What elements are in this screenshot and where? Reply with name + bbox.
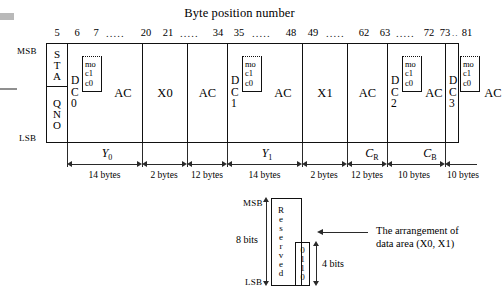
dc1-letter-n: 1: [231, 99, 239, 111]
ac-label-0: AC: [104, 86, 142, 101]
dc0-letter-n: 0: [71, 99, 79, 111]
byte-number-72: 72: [421, 27, 437, 38]
mode-box-dc1-c0: c0: [245, 79, 259, 89]
dimline-1: [70, 164, 139, 165]
dc2-letter-d: D: [391, 75, 399, 87]
byte-span-label-6: 12 bytes: [342, 170, 392, 180]
mode-box-dc3: mo c1 c0: [460, 56, 480, 92]
reserved-letter-8: d: [276, 269, 286, 278]
dimline-7: [390, 164, 442, 165]
cell-dc3-ac: D C 3 mo c1 c0 AC: [446, 44, 458, 142]
vdim-8bits-arrow-up: [263, 197, 269, 202]
dc0-label: D C 0: [71, 75, 79, 110]
dim-arrow-left-3: [187, 161, 192, 167]
ellipsis-6: ..: [452, 28, 459, 38]
dim-arrow-left-5: [302, 161, 307, 167]
annotation-arrow-line: [320, 232, 368, 233]
byte-span-label-2: 2 bytes: [141, 170, 187, 180]
annotation-arrow-head: [317, 229, 323, 235]
byte-number-20: 20: [138, 27, 154, 38]
vdim-4bits-arrow-down: [313, 281, 319, 286]
cell-x0: X0: [143, 44, 188, 142]
byte-number-35: 35: [231, 27, 247, 38]
byte-number-73: 73: [437, 27, 453, 38]
dim-arrow-left-1: [67, 161, 72, 167]
byte-span-label-8: 10 bytes: [447, 170, 497, 180]
cell-ac-1: AC: [188, 44, 228, 142]
ac-label-2: AC: [264, 86, 302, 101]
group-cr-sub: R: [373, 153, 378, 162]
byte-position-number-row: 5 6 7 ..... 20 21 ..... 34 35 ..... 48 4…: [0, 27, 479, 41]
group-y1-sub: 1: [268, 153, 272, 162]
dc2-letter-n: 2: [391, 99, 399, 111]
bits-label-8: 8 bits: [236, 234, 258, 245]
diagram-title: Byte position number: [0, 6, 479, 21]
ac-label-1: AC: [188, 86, 227, 101]
dim-arrow-left-6: [347, 161, 352, 167]
ellipsis-4: .....: [326, 28, 345, 39]
mode-box-dc2-c0: c0: [405, 79, 419, 89]
vdim-4bits: [316, 246, 317, 282]
group-label-cr: CR: [357, 146, 387, 162]
lsb-label-inset: LSB: [245, 277, 262, 287]
annotation-text: The arrangement of data area (X0, X1): [376, 224, 476, 250]
group-label-y1: Y1: [237, 146, 297, 162]
scan-artifact-left: [0, 88, 17, 90]
byte-number-34: 34: [210, 27, 226, 38]
ac-label-5: AC: [482, 86, 504, 101]
byte-span-label-3: 12 bytes: [182, 170, 232, 180]
dc1-label: D C 1: [231, 75, 239, 110]
byte-number-62: 62: [356, 27, 372, 38]
byte-span-label-5: 2 bytes: [301, 170, 347, 180]
byte-number-21: 21: [160, 27, 176, 38]
vdim-8bits-arrow-down: [263, 281, 269, 286]
byte-span-label-4: 14 bytes: [232, 170, 297, 180]
msb-label-inset: MSB: [243, 198, 263, 208]
group-cb-sub: B: [431, 153, 436, 162]
dc0-letter-d: D: [71, 75, 79, 87]
dc3-letter-d: D: [449, 75, 457, 87]
mode-box-dc0-c0: c0: [85, 79, 99, 89]
sta-letters: S T A: [53, 49, 61, 82]
group-label-y0: Y0: [77, 146, 137, 162]
ellipsis-5: .....: [396, 28, 415, 39]
ellipsis-2: .....: [180, 28, 199, 39]
byte-number-5: 5: [50, 27, 64, 38]
mode-box-dc2: mo c1 c0: [402, 56, 422, 92]
dimline-6: [350, 164, 384, 165]
ac-label-4: AC: [423, 86, 445, 101]
dimline-5: [305, 164, 344, 165]
dimline-4: [230, 164, 299, 165]
mode-box-dc0: mo c1 c0: [82, 56, 102, 92]
cell-x1: X1: [303, 44, 348, 142]
x0-label: X0: [143, 86, 187, 101]
byte-span-label-1: 14 bytes: [72, 170, 137, 180]
sta-letter-a: A: [53, 71, 61, 82]
x1-label: X1: [303, 86, 347, 101]
msb-label-main: MSB: [17, 46, 37, 56]
dc1-letter-d: D: [231, 75, 239, 87]
dim-arrow-left-4: [227, 161, 232, 167]
ac-label-3: AC: [348, 86, 387, 101]
cell-sta: S T A: [47, 44, 67, 87]
dim-arrow-left-7: [387, 161, 392, 167]
cell-dc0-ac: D C 0 mo c1 c0 AC: [68, 44, 143, 142]
reserved-label: R e s e r v e d: [276, 206, 286, 278]
dc3-letter-n: 3: [449, 99, 457, 111]
byte-number-48: 48: [283, 27, 299, 38]
dimline-2: [145, 164, 184, 165]
dimline-3: [190, 164, 224, 165]
bit-pattern-box: 0 1 1 0: [295, 242, 310, 286]
group-y0-sub: 0: [108, 153, 112, 162]
group-label-cb: CB: [415, 146, 445, 162]
dim-arrow-left-2: [142, 161, 147, 167]
dc3-label: D C 3: [449, 75, 457, 110]
cell-ac-3: AC: [348, 44, 388, 142]
mode-box-dc3-c0: c0: [463, 79, 477, 89]
bit-value-4: 0: [300, 273, 304, 282]
byte-number-81: 81: [459, 27, 475, 38]
dim-arrow-left-8: [445, 161, 450, 167]
sta-letter-t: T: [54, 60, 61, 71]
dc2-label: D C 2: [391, 75, 399, 110]
